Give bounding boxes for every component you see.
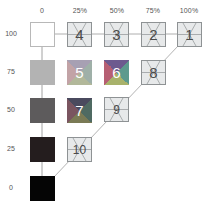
outlined-cell-10: 10	[67, 137, 92, 162]
color-cell-6: 6	[104, 60, 129, 85]
cell-number: 2	[142, 23, 165, 46]
outlined-cell-1: 1	[177, 22, 202, 47]
row-label-50: 50	[0, 106, 22, 113]
cell-number: 10	[68, 138, 91, 161]
cell-number: 9	[105, 98, 128, 121]
gray-swatch-0	[30, 176, 55, 201]
cell-number: 3	[105, 23, 128, 46]
gray-swatch-75	[30, 60, 55, 85]
outlined-cell-3: 3	[104, 22, 129, 47]
color-cell-7: 7	[67, 98, 92, 123]
color-cell-5: 5	[67, 60, 92, 85]
row-label-25: 25	[0, 145, 22, 152]
column-label-25: 25%	[60, 7, 100, 14]
gray-swatch-50	[30, 98, 55, 123]
gray-swatch-100	[30, 22, 55, 47]
column-label-50: 50%	[97, 7, 137, 14]
cell-number: 1	[178, 23, 201, 46]
outlined-cell-9: 9	[104, 97, 129, 122]
outlined-cell-2: 2	[141, 22, 166, 47]
row-label-75: 75	[0, 68, 22, 75]
cell-number: 8	[142, 61, 165, 84]
outlined-cell-8: 8	[141, 60, 166, 85]
gray-swatch-25	[30, 137, 55, 162]
column-label-75: 75%	[133, 7, 173, 14]
cell-number: 7	[67, 98, 92, 123]
column-label-0: 0	[22, 7, 62, 14]
outlined-cell-4: 4	[67, 22, 92, 47]
column-label-100: 100%	[169, 7, 209, 14]
row-label-100: 100	[0, 30, 22, 37]
cell-number: 4	[68, 23, 91, 46]
cell-number: 5	[67, 60, 92, 85]
cell-number: 6	[104, 60, 129, 85]
row-label-0: 0	[0, 184, 22, 191]
